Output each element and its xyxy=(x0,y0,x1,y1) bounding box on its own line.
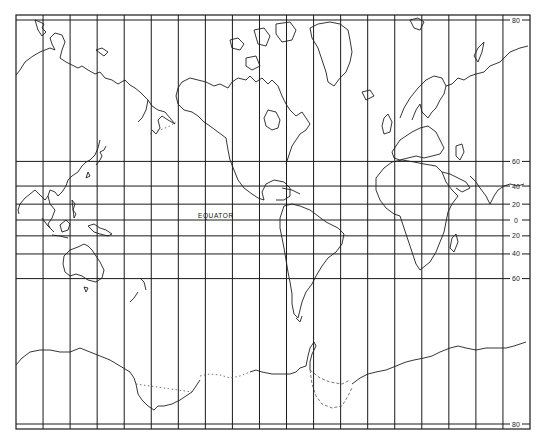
coast-hudson-bay xyxy=(264,110,280,130)
coast-gulf-mexico xyxy=(262,180,290,200)
coast-alaska-canada xyxy=(178,76,310,164)
latitude-label: 60 xyxy=(512,158,520,165)
coast-antarctic-peninsula xyxy=(306,342,316,370)
coast-caspian xyxy=(456,144,464,160)
coast-antarctica-mid xyxy=(136,384,192,392)
coast-japan xyxy=(86,146,106,178)
latitude-label: 20 xyxy=(512,201,520,208)
latitude-label: 60 xyxy=(512,275,520,282)
coast-scandinavia xyxy=(400,76,446,120)
coast-tasmania xyxy=(84,287,88,292)
latitude-label: 20 xyxy=(512,232,520,239)
coast-madagascar xyxy=(450,234,458,252)
coast-cuba xyxy=(282,188,300,194)
latitude-label: 80 xyxy=(512,421,520,428)
coast-alaska-south xyxy=(176,88,226,138)
coast-indochina xyxy=(48,196,55,228)
coast-philippines xyxy=(72,200,76,218)
coast-antarctica-west xyxy=(16,348,136,384)
coast-arctic-islands-3 xyxy=(276,22,296,42)
coast-antarctica-east xyxy=(352,342,526,384)
latitude-label: 40 xyxy=(512,250,520,257)
coast-arctic-islands-4 xyxy=(246,56,260,70)
coast-greenland xyxy=(310,22,352,86)
world-outline-map: 80604020020406080 xyxy=(0,0,544,441)
coast-antarctica-weddell xyxy=(310,370,352,408)
map-frame xyxy=(16,15,530,429)
coast-russia-arctic xyxy=(446,46,528,86)
coast-kamchatka xyxy=(138,100,148,122)
coast-chukotka-islands xyxy=(35,20,46,36)
coast-borneo xyxy=(60,220,70,232)
coast-antarctica-center xyxy=(200,372,250,378)
coast-antarctica-coast-mid xyxy=(192,366,306,392)
equator-label: EQUATOR xyxy=(198,212,234,220)
coast-south-america xyxy=(280,204,344,318)
coast-western-europe xyxy=(392,126,444,160)
coast-pacific-na xyxy=(226,138,264,200)
coast-new-zealand xyxy=(130,278,146,302)
latitude-label: 80 xyxy=(512,17,520,24)
coastlines xyxy=(16,18,528,410)
latitude-label: 0 xyxy=(514,217,518,224)
graticule: 80604020020406080 xyxy=(16,15,530,429)
map-labels: EQUATOR xyxy=(198,212,234,220)
coast-arctic-islands-2 xyxy=(254,28,270,46)
coast-australia xyxy=(63,244,104,282)
coast-new-guinea xyxy=(88,224,112,236)
date-line-dotted xyxy=(150,122,176,134)
coast-novaya-siberia xyxy=(96,48,108,56)
coast-britain xyxy=(382,114,392,134)
